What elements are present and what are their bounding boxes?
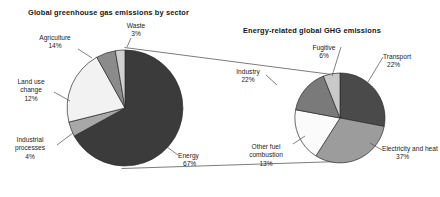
label-waste-value: 3%: [118, 30, 154, 38]
label-energy-value: 67%: [178, 160, 220, 168]
label-electricity-and-heat-value: 37%: [382, 153, 438, 161]
label-land-use-change-name: Land use change: [8, 78, 54, 95]
label-industry-name: Industry: [228, 68, 268, 76]
label-transport-name: Transport: [383, 53, 425, 61]
label-land-use-change-value: 12%: [8, 95, 54, 103]
leader-industrial-processes: [57, 133, 73, 145]
leader-transport: [368, 57, 383, 82]
label-other-fuel-combustion: Other fuel combustion 13%: [239, 143, 293, 168]
label-agriculture-value: 14%: [31, 42, 79, 50]
label-transport: Transport 22%: [383, 53, 425, 70]
leader-waste: [127, 38, 131, 47]
label-industrial-processes: Industrial processes 4%: [4, 136, 56, 161]
label-other-fuel-combustion-name: Other fuel combustion: [239, 143, 293, 160]
right-pie: [295, 73, 385, 163]
label-electricity-and-heat: Electricity and heat 37%: [382, 145, 438, 162]
label-agriculture: Agriculture 14%: [31, 34, 79, 51]
left-pie: [67, 50, 183, 166]
label-fugitive-name: Fugitive: [307, 44, 341, 52]
label-industry: Industry 22%: [228, 68, 268, 85]
label-energy: Energy 67%: [178, 152, 220, 169]
leader-energy: [167, 147, 178, 155]
label-industrial-processes-value: 4%: [4, 153, 56, 161]
label-other-fuel-combustion-value: 13%: [239, 160, 293, 168]
leader-land-use-change: [54, 92, 70, 101]
label-agriculture-name: Agriculture: [31, 34, 79, 42]
label-waste: Waste 3%: [118, 22, 154, 39]
label-land-use-change: Land use change 12%: [8, 78, 54, 103]
ghg-emissions-figure: Global greenhouse gas emissions by secto…: [0, 0, 440, 197]
pie-charts-canvas: [0, 0, 440, 197]
slice-transport: [340, 73, 385, 126]
label-industrial-processes-name: Industrial processes: [4, 136, 56, 153]
label-fugitive-value: 6%: [307, 52, 341, 60]
label-energy-name: Energy: [178, 152, 220, 160]
label-waste-name: Waste: [118, 22, 154, 30]
label-transport-value: 22%: [383, 61, 425, 69]
label-fugitive: Fugitive 6%: [307, 44, 341, 61]
leader-agriculture: [78, 49, 92, 58]
label-electricity-and-heat-name: Electricity and heat: [382, 145, 438, 153]
label-industry-value: 22%: [228, 76, 268, 84]
